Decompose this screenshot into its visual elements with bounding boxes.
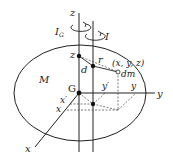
z-point <box>77 54 81 58</box>
label-z-axis: z <box>69 7 76 18</box>
label-y-inner: y <box>130 81 137 91</box>
label-dm: dm <box>121 69 135 79</box>
label-IG: IG <box>54 26 64 38</box>
parallel-axis-diagram: z IG I z r (x, y, z) d dm M G y′ y y x′ … <box>0 0 173 156</box>
x-axis <box>35 93 79 147</box>
projected-point <box>91 102 95 106</box>
label-coords: (x, y, z) <box>112 58 145 68</box>
label-z-point: z <box>69 49 76 60</box>
label-x-axis: x <box>25 143 31 154</box>
label-d: d <box>81 64 87 75</box>
axis-point <box>91 64 95 68</box>
label-I: I <box>104 31 110 42</box>
rotation-arrow-IG <box>71 24 91 31</box>
label-M: M <box>38 74 50 85</box>
label-x-inner: x <box>56 104 61 114</box>
label-y-prime: y′ <box>101 81 109 91</box>
dm-point <box>116 70 120 74</box>
rotation-arrow-I <box>85 33 105 40</box>
label-y-axis: y <box>156 88 163 99</box>
label-G: G <box>68 83 76 94</box>
label-r: r <box>98 54 104 65</box>
G-point <box>77 91 82 96</box>
